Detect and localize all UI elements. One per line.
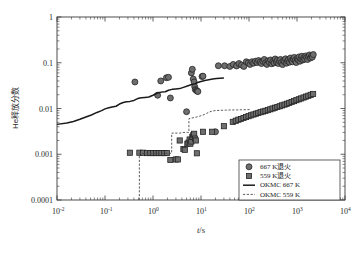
data-point-circle bbox=[189, 66, 195, 72]
x-tick-label: 102 bbox=[244, 206, 255, 217]
legend-label: OKMC 559 K bbox=[260, 191, 300, 199]
y-axis-title: He释放分数 bbox=[10, 87, 20, 129]
data-point-square bbox=[168, 157, 173, 162]
x-tick-label: 101 bbox=[196, 206, 207, 217]
series-square bbox=[127, 91, 315, 162]
data-point-square bbox=[221, 124, 226, 129]
x-axis-title: t/s bbox=[197, 225, 205, 235]
data-point-circle bbox=[158, 78, 164, 84]
data-point-square bbox=[127, 150, 132, 155]
y-tick-label: 1 bbox=[49, 13, 53, 22]
legend-marker-square bbox=[246, 173, 251, 178]
data-point-square bbox=[182, 147, 187, 152]
y-tick-label: 0.001 bbox=[35, 150, 53, 159]
y-tick-label: 0.1 bbox=[43, 59, 53, 68]
x-tick-label: 104 bbox=[340, 206, 351, 217]
x-tick-label: 10-2 bbox=[52, 206, 65, 217]
legend-label: 667 K退火 bbox=[260, 162, 291, 171]
data-point-square bbox=[194, 151, 199, 156]
data-point-square bbox=[175, 157, 180, 162]
data-point-square bbox=[177, 138, 182, 143]
y-tick-label: 0.01 bbox=[39, 105, 53, 114]
series-line-solid bbox=[57, 78, 224, 124]
x-tick-label: 10-1 bbox=[100, 206, 113, 217]
data-point-square bbox=[311, 91, 316, 96]
y-tick-label: 0.0001 bbox=[31, 196, 53, 205]
y-axis-tick-labels: 10.10.010.0010.0001 bbox=[31, 13, 53, 205]
data-point-circle bbox=[195, 89, 201, 95]
chart-figure: 10-210-1100101102103104 10.10.010.0010.0… bbox=[0, 0, 362, 254]
x-tick-label: 100 bbox=[148, 206, 159, 217]
data-point-circle bbox=[132, 79, 138, 85]
data-point-square bbox=[200, 129, 205, 134]
data-point-circle bbox=[167, 95, 173, 101]
x-axis-tick-labels: 10-210-1100101102103104 bbox=[52, 206, 351, 217]
data-point-circle bbox=[200, 73, 206, 79]
series-circle bbox=[132, 52, 316, 135]
data-point-square bbox=[209, 129, 214, 134]
data-point-circle bbox=[165, 74, 171, 80]
data-point-square bbox=[193, 138, 198, 143]
data-point-circle bbox=[310, 52, 316, 58]
chart-legend: 667 K退火559 K退火OKMC 667 KOKMC 559 K bbox=[239, 160, 340, 200]
data-point-circle bbox=[184, 109, 190, 115]
legend-label: 559 K退火 bbox=[260, 171, 291, 180]
legend-label: OKMC 667 K bbox=[260, 181, 300, 189]
data-point-circle bbox=[215, 63, 221, 69]
chart-canvas: 10-210-1100101102103104 10.10.010.0010.0… bbox=[0, 0, 362, 254]
legend-marker-circle bbox=[246, 164, 252, 170]
x-tick-label: 103 bbox=[292, 206, 303, 217]
